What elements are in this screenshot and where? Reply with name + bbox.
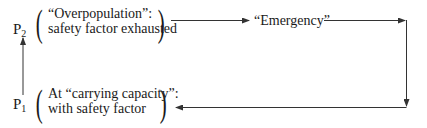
left-paren-p2: ( — [36, 4, 43, 42]
right-paren-p2: ) — [158, 4, 165, 42]
right-paren-p1: ) — [160, 84, 167, 122]
state-label-p2: P2 — [13, 22, 26, 41]
state-label-p1: P1 — [13, 97, 26, 116]
emergency-label: “Emergency” — [254, 13, 330, 28]
left-paren-p1: ( — [36, 84, 43, 122]
